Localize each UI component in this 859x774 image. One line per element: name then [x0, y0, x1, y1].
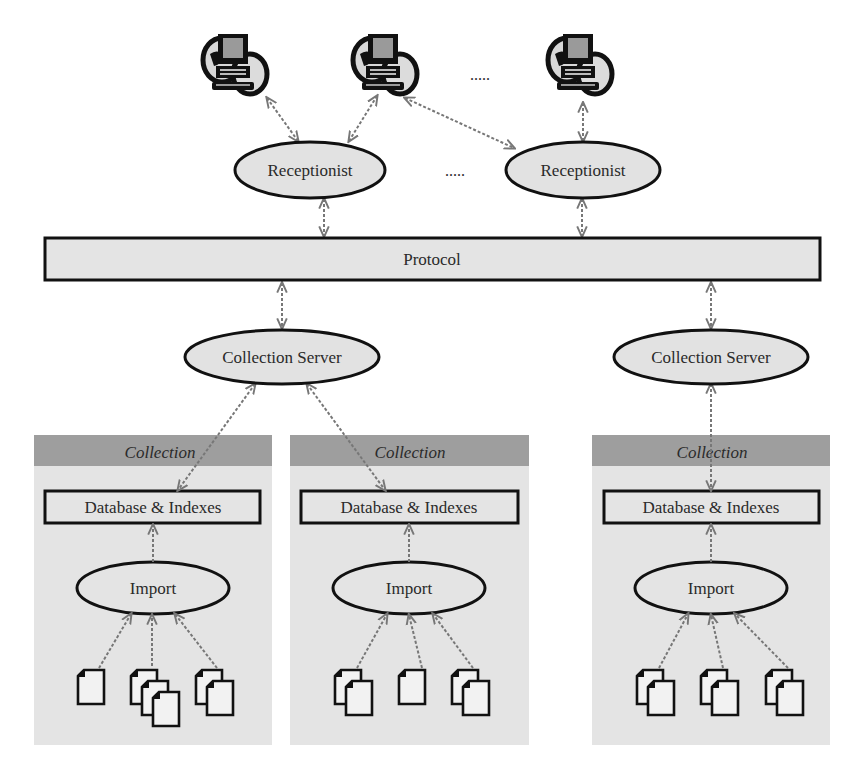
receptionist-label: Receptionist	[541, 161, 626, 180]
client-computer-3	[548, 34, 612, 94]
document-icon	[712, 681, 738, 715]
document-icon	[399, 670, 425, 704]
database-label: Database & Indexes	[85, 498, 222, 517]
networked-computer-icon	[548, 34, 612, 94]
protocol-bar: Protocol	[45, 238, 820, 280]
client-computer-2	[353, 34, 417, 94]
receptionist-node-1: Receptionist	[235, 142, 385, 198]
collection-header: Collection	[375, 443, 446, 462]
receptionist-ellipsis: .....	[445, 162, 465, 179]
collection-server-node-2: Collection Server	[614, 330, 808, 384]
document-icon	[153, 692, 179, 726]
collection-header: Collection	[125, 443, 196, 462]
receptionist-label: Receptionist	[268, 161, 353, 180]
document-stack	[399, 670, 425, 704]
architecture-diagram: ..... Receptionist ..... Receptionist Pr…	[0, 0, 859, 774]
connector-client1-receptionist1	[267, 98, 298, 141]
collection-server-label: Collection Server	[222, 348, 342, 367]
receptionist-node-2: Receptionist	[506, 142, 660, 198]
connectors	[267, 96, 711, 328]
connector-client2-receptionist1	[349, 96, 377, 141]
import-label: Import	[688, 579, 735, 598]
document-icon	[78, 670, 104, 704]
document-icon	[346, 681, 372, 715]
connector-client2-receptionist2	[405, 98, 514, 148]
networked-computer-icon	[203, 34, 267, 94]
document-stack	[78, 670, 104, 704]
document-icon	[777, 681, 803, 715]
import-label: Import	[130, 579, 177, 598]
protocol-label: Protocol	[403, 250, 461, 269]
database-label: Database & Indexes	[341, 498, 478, 517]
client-computer-1	[203, 34, 267, 94]
document-icon	[207, 681, 233, 715]
document-icon	[463, 681, 489, 715]
collection-server-label: Collection Server	[651, 348, 771, 367]
database-label: Database & Indexes	[643, 498, 780, 517]
document-icon	[648, 681, 674, 715]
client-ellipsis: .....	[470, 66, 490, 83]
collection-server-node-1: Collection Server	[185, 330, 379, 384]
networked-computer-icon	[353, 34, 417, 94]
import-label: Import	[386, 579, 433, 598]
